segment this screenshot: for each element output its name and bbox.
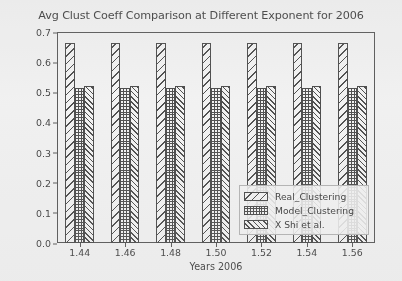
legend-swatch bbox=[244, 192, 268, 201]
legend-label: Model_Clustering bbox=[275, 205, 354, 216]
x-axis-label: Years 2006 bbox=[57, 261, 375, 272]
x-axis-tick-label: 1.48 bbox=[160, 247, 181, 258]
y-axis-tick-text: 0.6 bbox=[36, 57, 57, 68]
y-axis-tick-text: 0.2 bbox=[36, 177, 57, 188]
bar bbox=[130, 86, 140, 243]
bar bbox=[175, 86, 185, 243]
x-axis-tick-label: 1.56 bbox=[342, 247, 363, 258]
legend-item: Model_Clustering bbox=[244, 203, 364, 217]
legend-item: Real_Clustering bbox=[244, 189, 364, 203]
y-axis-tick-label: 0.6 bbox=[0, 57, 57, 68]
y-axis-tick-text: 0.4 bbox=[36, 117, 57, 128]
bar bbox=[75, 88, 85, 243]
x-axis-tick-label: 1.44 bbox=[69, 247, 90, 258]
bar bbox=[156, 43, 166, 243]
y-axis-tick-text: 0.0 bbox=[36, 238, 57, 249]
x-axis-tick-label: 1.46 bbox=[115, 247, 136, 258]
y-axis-tick-label: 0.3 bbox=[0, 147, 57, 158]
y-axis-tick-label: 0.4 bbox=[0, 117, 57, 128]
legend-swatch bbox=[244, 206, 268, 215]
legend-item: X Shi et al. bbox=[244, 217, 364, 231]
y-axis-tick-text: 0.5 bbox=[36, 87, 57, 98]
y-axis-tick-label: 0.0 bbox=[0, 238, 57, 249]
y-axis-tick-label: 0.2 bbox=[0, 177, 57, 188]
chart-title: Avg Clust Coeff Comparison at Different … bbox=[0, 9, 402, 22]
y-axis-tick-text: 0.3 bbox=[36, 147, 57, 158]
bar bbox=[166, 88, 176, 243]
y-axis-tick-label: 0.7 bbox=[0, 27, 57, 38]
bar bbox=[111, 43, 121, 243]
bar bbox=[120, 88, 130, 243]
y-axis-tick-label: 0.1 bbox=[0, 207, 57, 218]
chart-figure: Avg Clust Coeff Comparison at Different … bbox=[0, 0, 402, 281]
legend-label: Real_Clustering bbox=[275, 191, 346, 202]
bar bbox=[202, 43, 212, 243]
x-axis-tick-label: 1.50 bbox=[206, 247, 227, 258]
legend-swatch bbox=[244, 220, 268, 229]
y-axis-tick-text: 0.7 bbox=[36, 27, 57, 38]
x-axis-tick-label: 1.52 bbox=[251, 247, 272, 258]
legend: Real_ClusteringModel_ClusteringX Shi et … bbox=[239, 185, 369, 235]
x-axis-tick-label: 1.54 bbox=[296, 247, 317, 258]
legend-label: X Shi et al. bbox=[275, 219, 325, 230]
y-axis-tick-label: 0.5 bbox=[0, 87, 57, 98]
bar bbox=[84, 86, 94, 243]
bar bbox=[65, 43, 75, 243]
y-axis-tick-text: 0.1 bbox=[36, 207, 57, 218]
bar bbox=[221, 86, 231, 243]
bar bbox=[211, 88, 221, 243]
